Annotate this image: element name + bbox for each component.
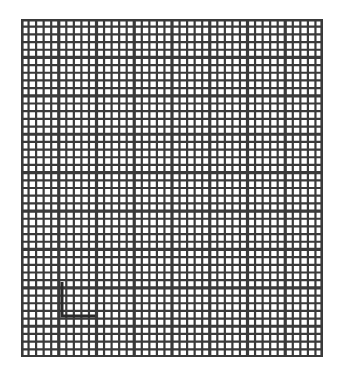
grid-paper — [21, 19, 323, 357]
grid-lines — [21, 19, 323, 357]
